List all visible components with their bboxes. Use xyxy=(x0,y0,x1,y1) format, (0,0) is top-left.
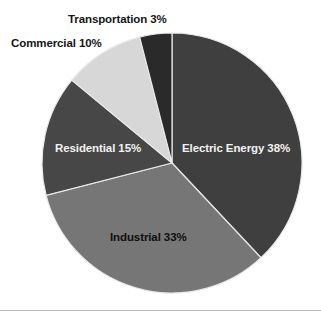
footer-divider xyxy=(0,310,321,311)
pie-slice-label-industrial: Industrial 33% xyxy=(110,232,187,244)
pie-chart-figure: Transportation 3% Commercial 10% Residen… xyxy=(0,0,321,322)
pie-slice-label-commercial: Commercial 10% xyxy=(11,38,102,50)
pie-slice-label-electric-energy: Electric Energy 38% xyxy=(182,143,290,155)
pie-slice-label-residential: Residential 15% xyxy=(55,143,141,155)
pie-slices-group xyxy=(42,33,302,293)
pie-slice-label-transportation: Transportation 3% xyxy=(68,14,167,26)
